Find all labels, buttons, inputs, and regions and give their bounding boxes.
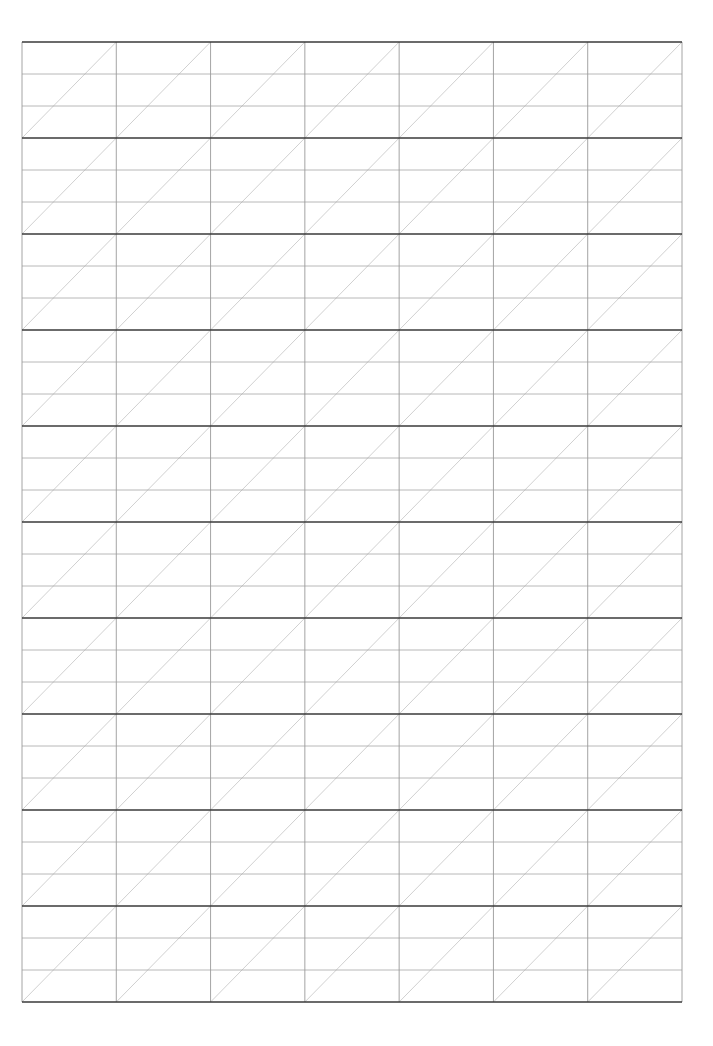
cell-diagonal bbox=[588, 138, 682, 234]
cell-diagonal bbox=[305, 138, 399, 234]
cell-diagonal bbox=[211, 42, 305, 138]
cell-diagonal bbox=[493, 522, 587, 618]
cell-diagonal bbox=[305, 42, 399, 138]
cell-diagonal bbox=[493, 714, 587, 810]
cell-diagonal bbox=[399, 330, 493, 426]
cell-diagonal bbox=[211, 618, 305, 714]
cell-diagonal bbox=[399, 138, 493, 234]
cell-diagonal bbox=[211, 906, 305, 1002]
cell-diagonal bbox=[22, 42, 116, 138]
cell-diagonal bbox=[116, 426, 210, 522]
cell-diagonal bbox=[588, 906, 682, 1002]
cell-diagonal bbox=[305, 522, 399, 618]
cell-diagonal bbox=[305, 810, 399, 906]
cell-diagonal bbox=[116, 522, 210, 618]
cell-diagonal bbox=[399, 810, 493, 906]
cell-diagonal bbox=[305, 714, 399, 810]
cell-diagonal bbox=[211, 522, 305, 618]
cell-diagonal bbox=[22, 330, 116, 426]
cell-diagonal bbox=[588, 618, 682, 714]
cell-diagonal bbox=[399, 522, 493, 618]
cell-diagonal bbox=[399, 426, 493, 522]
cell-diagonal bbox=[588, 42, 682, 138]
cell-diagonal bbox=[116, 138, 210, 234]
cell-diagonal bbox=[116, 42, 210, 138]
cell-diagonal bbox=[493, 426, 587, 522]
cell-diagonal bbox=[116, 618, 210, 714]
cell-diagonal bbox=[211, 330, 305, 426]
cell-diagonal bbox=[305, 330, 399, 426]
cell-diagonal bbox=[493, 234, 587, 330]
cell-diagonal bbox=[493, 810, 587, 906]
cell-diagonal bbox=[305, 618, 399, 714]
cell-diagonal bbox=[116, 906, 210, 1002]
cell-diagonal bbox=[493, 906, 587, 1002]
cell-diagonal bbox=[116, 234, 210, 330]
cell-diagonal bbox=[116, 714, 210, 810]
cell-diagonal bbox=[305, 234, 399, 330]
cell-diagonal bbox=[211, 714, 305, 810]
cell-diagonal bbox=[211, 426, 305, 522]
cell-diagonal bbox=[588, 330, 682, 426]
cell-diagonal bbox=[22, 234, 116, 330]
cell-diagonal bbox=[211, 810, 305, 906]
cell-diagonal bbox=[22, 522, 116, 618]
cell-diagonal bbox=[305, 906, 399, 1002]
cell-diagonal bbox=[399, 618, 493, 714]
cell-diagonal bbox=[22, 810, 116, 906]
cell-diagonal bbox=[399, 234, 493, 330]
cell-diagonal bbox=[305, 426, 399, 522]
cell-diagonal bbox=[588, 714, 682, 810]
cell-diagonal bbox=[399, 42, 493, 138]
cell-diagonal bbox=[116, 330, 210, 426]
cell-diagonal bbox=[211, 234, 305, 330]
cell-diagonal bbox=[493, 42, 587, 138]
cell-diagonal bbox=[22, 138, 116, 234]
cell-diagonal bbox=[588, 426, 682, 522]
cell-diagonal bbox=[22, 714, 116, 810]
cell-diagonal bbox=[588, 522, 682, 618]
cell-diagonal bbox=[399, 714, 493, 810]
cell-diagonal bbox=[22, 906, 116, 1002]
cell-diagonal bbox=[399, 906, 493, 1002]
cell-diagonal bbox=[493, 618, 587, 714]
cell-diagonal bbox=[22, 618, 116, 714]
cell-diagonal bbox=[211, 138, 305, 234]
cell-diagonal bbox=[22, 426, 116, 522]
cell-diagonal bbox=[588, 234, 682, 330]
cell-diagonal bbox=[493, 330, 587, 426]
cell-diagonal bbox=[116, 810, 210, 906]
practice-grid-sheet bbox=[0, 0, 713, 1046]
cell-diagonal bbox=[493, 138, 587, 234]
cell-diagonal bbox=[588, 810, 682, 906]
